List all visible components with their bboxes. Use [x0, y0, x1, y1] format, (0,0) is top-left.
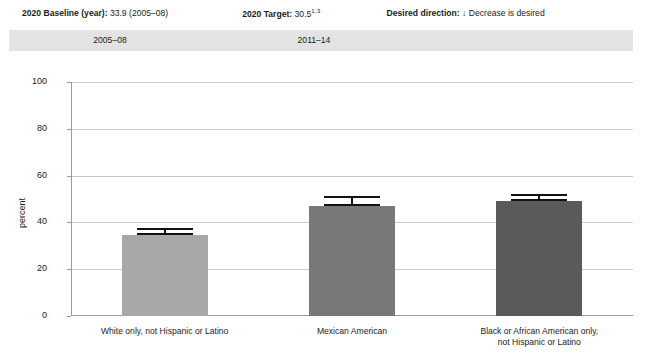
y-tick-label: 0: [7, 311, 47, 320]
time-period-label-1: 2011–14: [259, 30, 369, 51]
y-tick-label: 100: [7, 77, 47, 86]
error-bar-cap-lower: [137, 233, 193, 235]
gridline: [71, 82, 633, 83]
baseline-value: 33.9 (2005–08): [110, 8, 168, 18]
y-tick-mark: [67, 316, 71, 317]
error-bar-cap-upper: [137, 228, 193, 230]
target-value: 30.5: [295, 8, 312, 18]
target-stat: 2020 Target: 30.51,3: [242, 8, 320, 19]
y-tick-label: 80: [7, 124, 47, 133]
target-footnote-marker: 1,3: [311, 8, 320, 14]
time-period-band: 2005–08 2011–14: [9, 30, 633, 51]
error-bar-cap-lower: [511, 199, 567, 201]
plot-area: 020406080100: [71, 82, 633, 316]
time-period-label-0: 2005–08: [55, 30, 165, 51]
error-bar: [137, 228, 193, 235]
gridline: [71, 129, 633, 130]
bar-chart: percent 020406080100 White only, not His…: [0, 58, 650, 358]
summary-header: 2020 Baseline (year): 33.9 (2005–08) 202…: [0, 0, 650, 26]
x-axis-category-label-line: Mexican American: [258, 326, 445, 337]
down-arrow-icon: ↓: [462, 8, 466, 18]
error-bar-cap-upper: [511, 194, 567, 196]
error-bar-cap-lower: [324, 204, 380, 206]
y-axis-line: [71, 82, 72, 316]
target-label: 2020 Target:: [242, 8, 292, 18]
x-axis-category-label: Mexican American: [258, 326, 445, 337]
bar[interactable]: [496, 201, 582, 316]
x-axis-category-label: White only, not Hispanic or Latino: [71, 326, 258, 337]
desired-direction-stat: Desired direction: ↓ Decrease is desired: [387, 8, 545, 18]
y-tick-label: 60: [7, 171, 47, 180]
gridline: [71, 176, 633, 177]
baseline-label: 2020 Baseline (year):: [22, 8, 108, 18]
y-axis-title: percent: [17, 168, 27, 258]
x-axis-category-label-line: not Hispanic or Latino: [446, 337, 633, 348]
bar[interactable]: [122, 235, 208, 316]
y-tick-label: 40: [7, 217, 47, 226]
error-bar: [511, 194, 567, 201]
x-axis-category-label: Black or African American only,not Hispa…: [446, 326, 633, 348]
desired-direction-label: Desired direction:: [387, 8, 460, 18]
x-axis-category-label-line: Black or African American only,: [446, 326, 633, 337]
baseline-stat: 2020 Baseline (year): 33.9 (2005–08): [22, 8, 168, 18]
x-axis-category-label-line: White only, not Hispanic or Latino: [71, 326, 258, 337]
error-bar: [324, 196, 380, 206]
error-bar-cap-upper: [324, 196, 380, 198]
desired-direction-value: Decrease is desired: [469, 8, 545, 18]
y-tick-label: 20: [7, 264, 47, 273]
bar[interactable]: [309, 206, 395, 316]
